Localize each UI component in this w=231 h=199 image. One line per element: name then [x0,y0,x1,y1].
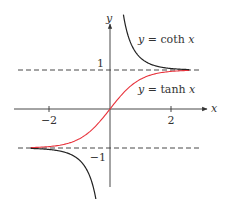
hyperbolic-functions-chart: −2 2 1 −1 x y y = coth x y = tanh x [0,0,231,199]
coth-curve-negative [31,148,97,199]
x-axis-label: x [211,102,218,115]
y-tick-label-neg1: −1 [90,151,106,164]
y-axis-label: y [105,12,113,25]
x-tick-label-pos2: 2 [168,114,175,127]
y-tick-label-1: 1 [97,57,104,70]
coth-label-x: x [188,33,195,46]
x-tick-label-neg2: −2 [41,114,57,127]
coth-label: y = coth x [137,33,195,46]
tanh-label-eq: = tanh [144,83,189,96]
tanh-label-x: x [189,83,196,96]
tanh-label: y = tanh x [137,83,196,96]
coth-label-eq: = coth [144,33,188,46]
